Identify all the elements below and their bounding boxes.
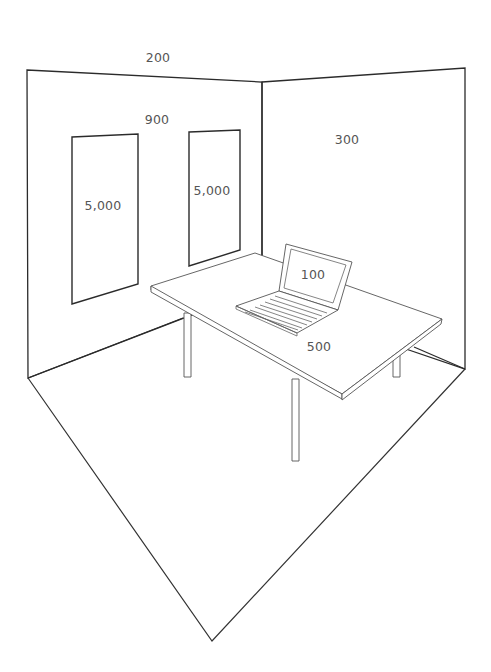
window-right: [189, 130, 240, 266]
right-wall-lux-label: 300: [335, 132, 359, 147]
window-right-lux-label: 5,000: [194, 183, 231, 198]
back-wall-lux-label: 900: [145, 112, 169, 127]
window-left-lux-label: 5,000: [85, 198, 122, 213]
left-floor-edge: [28, 318, 183, 378]
right-floor-edge: [414, 347, 465, 369]
room-diagram: [0, 0, 491, 672]
floor-outline: [28, 369, 465, 641]
ceiling-lux-label: 200: [146, 50, 170, 65]
desk-leg-front: [292, 379, 299, 461]
laptop-screen-lux-label: 100: [301, 267, 325, 282]
desk-surface-lux-label: 500: [307, 339, 331, 354]
window-left: [72, 134, 138, 304]
